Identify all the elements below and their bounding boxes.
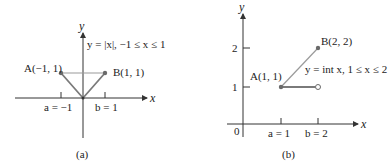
- tick-b-label: b = 2: [305, 127, 328, 139]
- point-A-label: A(−1, 1): [24, 62, 62, 75]
- x-axis-label: x: [149, 91, 156, 105]
- y-tick-label-2: 2: [232, 42, 238, 54]
- x-axis-label: x: [360, 117, 367, 131]
- point-B: [316, 46, 320, 50]
- function-label: y = |x|, −1 ≤ x ≤ 1: [87, 38, 165, 50]
- caption-b: (b): [282, 148, 295, 161]
- y-axis-label: y: [238, 0, 245, 14]
- point-B-label: B(2, 2): [321, 35, 353, 48]
- point-B-label: B(1, 1): [113, 66, 145, 79]
- point-A: [279, 85, 283, 89]
- point-B: [103, 71, 107, 75]
- figure: x y a = −1 b = 1 A(−1, 1) B(1, 1) y = |x…: [0, 0, 391, 168]
- caption-a: (a): [76, 148, 89, 161]
- tick-b-label: b = 1: [95, 101, 118, 113]
- origin-label: 0: [234, 125, 240, 137]
- panel-a: x y a = −1 b = 1 A(−1, 1) B(1, 1) y = |x…: [15, 19, 165, 161]
- origin-point: [82, 97, 85, 100]
- y-tick-label-1: 1: [232, 81, 238, 93]
- open-endpoint: [316, 85, 321, 90]
- point-A-label: A(1, 1): [250, 70, 282, 83]
- y-axis-label: y: [78, 19, 85, 33]
- tick-a-label: a = 1: [268, 127, 290, 139]
- tick-a-label: a = −1: [44, 101, 72, 113]
- panel-b: x y 0 1 2 a = 1 b = 2 A(1, 1) B(2, 2) y …: [227, 0, 387, 161]
- function-label: y = int x, 1 ≤ x ≤ 2: [305, 63, 387, 75]
